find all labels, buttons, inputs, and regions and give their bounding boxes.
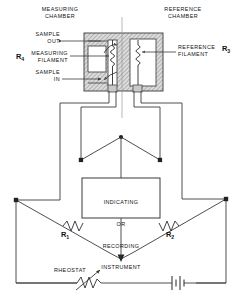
label-reference-chamber: REFERENCE CHAMBER bbox=[146, 6, 220, 19]
reference-chamber-cavity bbox=[130, 39, 156, 91]
label-r1: R1 bbox=[61, 230, 69, 240]
label-sample-in: SAMPLE IN bbox=[18, 69, 60, 82]
diagram-canvas: MEASURING CHAMBER REFERENCE CHAMBER SAMP… bbox=[0, 0, 242, 300]
instrument-line-4: INSTRUMENT bbox=[82, 264, 160, 271]
instrument-line-3: RECORDING bbox=[82, 243, 160, 250]
battery-symbol bbox=[160, 276, 226, 290]
label-r3: R3 bbox=[222, 44, 230, 54]
label-measuring-chamber: MEASURING CHAMBER bbox=[24, 6, 96, 19]
label-r2: R2 bbox=[166, 230, 174, 240]
label-reference-filament: REFERENCE FILAMENT bbox=[178, 44, 222, 57]
instrument-label: INDICATING OR RECORDING INSTRUMENT bbox=[82, 185, 160, 286]
label-measuring-filament: MEASURING FILAMENT bbox=[18, 50, 68, 63]
left-bridge-node bbox=[14, 198, 18, 202]
instrument-line-2: OR bbox=[82, 221, 160, 228]
label-r4: R4 bbox=[16, 52, 24, 62]
bridge-upper-network bbox=[79, 135, 162, 178]
right-bridge-node bbox=[224, 197, 228, 201]
label-sample-out: SAMPLE OUT bbox=[18, 31, 60, 44]
measuring-chamber-cavity bbox=[88, 40, 117, 91]
instrument-line-1: INDICATING bbox=[82, 199, 160, 206]
